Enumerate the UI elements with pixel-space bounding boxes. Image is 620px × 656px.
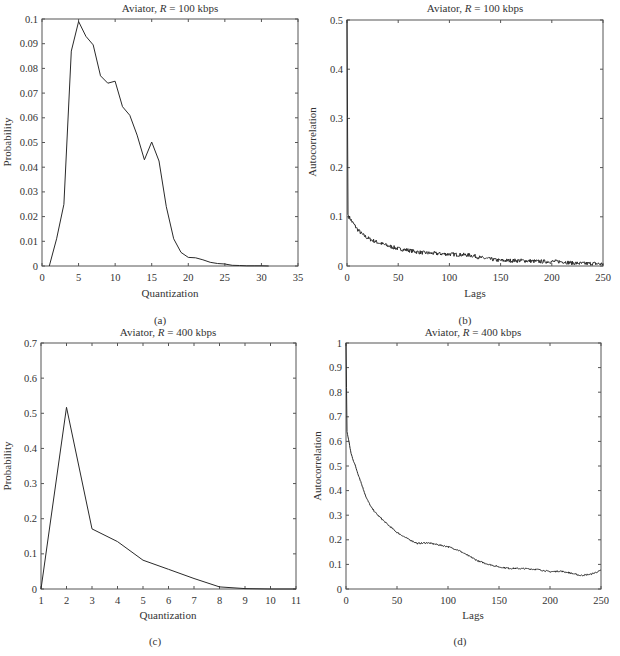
x-tick-label: 25: [220, 272, 231, 283]
x-tick-label: 50: [393, 272, 404, 283]
x-tick-label: 100: [440, 595, 456, 606]
panel-a-title: Aviator, R = 100 kbps: [122, 2, 218, 14]
x-tick-label: 15: [146, 272, 157, 283]
x-tick-label: 10: [110, 272, 121, 283]
y-tick-label: 0.06: [20, 112, 38, 123]
caption-d: (d): [454, 635, 467, 648]
plot-area-d: 05010015020025000.10.20.30.40.50.60.70.8…: [329, 338, 609, 607]
x-tick-label: 200: [542, 595, 558, 606]
y-tick-label: 0.6: [24, 373, 37, 384]
x-tick-label: 3: [89, 595, 94, 606]
x-tick-label: 0: [39, 272, 44, 283]
x-tick-label: 150: [493, 272, 509, 283]
x-axis-label-c: Quantization: [140, 609, 197, 621]
panel-d-title: Aviator, R = 400 kbps: [425, 326, 521, 338]
y-tick-label: 0.4: [24, 443, 38, 454]
x-tick-label: 250: [593, 595, 609, 606]
x-tick-label: 1: [38, 595, 43, 606]
y-tick-label: 0: [33, 261, 38, 272]
panel-b: Aviator, R = 100 kbps 05010015020025000.…: [306, 2, 611, 327]
x-tick-label: 6: [166, 595, 171, 606]
data-series-line: [49, 22, 268, 267]
y-tick-label: 0.3: [24, 478, 37, 489]
x-tick-label: 200: [544, 272, 560, 283]
y-tick-label: 0.1: [24, 548, 37, 559]
y-tick-label: 0.4: [329, 485, 343, 496]
panel-d: Aviator, R = 400 kbps 05010015020025000.…: [311, 326, 609, 648]
y-tick-label: 0.3: [329, 510, 342, 521]
x-tick-label: 9: [242, 595, 247, 606]
y-tick-label: 0.09: [20, 38, 38, 49]
x-tick-label: 8: [217, 595, 222, 606]
y-tick-label: 0.8: [329, 387, 342, 398]
y-tick-label: 0.6: [329, 436, 342, 447]
y-tick-label: 0.5: [330, 15, 343, 26]
x-axis-label-a: Quantization: [142, 287, 199, 299]
y-tick-label: 0.2: [330, 162, 343, 173]
plot-frame: [42, 19, 298, 266]
data-series-line: [347, 20, 603, 265]
y-tick-label: 0.1: [330, 211, 343, 222]
y-tick-label: 0.05: [20, 137, 38, 148]
y-tick-label: 0: [337, 584, 342, 595]
y-tick-label: 0.08: [20, 63, 38, 74]
y-tick-label: 0.04: [20, 162, 39, 173]
x-tick-label: 20: [183, 272, 194, 283]
panel-c-title: Aviator, R = 400 kbps: [120, 326, 216, 338]
y-tick-label: 0.1: [25, 14, 38, 25]
x-tick-label: 2: [64, 595, 69, 606]
y-axis-label-d: Autocorrelation: [311, 431, 323, 501]
y-tick-label: 0.1: [329, 559, 342, 570]
x-tick-label: 5: [76, 272, 81, 283]
panel-a: Aviator, R = 100 kbps 0510152025303500.0…: [1, 2, 303, 327]
y-tick-label: 0.7: [24, 338, 37, 349]
x-tick-label: 4: [115, 595, 121, 606]
x-axis-label-d: Lags: [462, 609, 483, 621]
x-tick-label: 0: [343, 595, 348, 606]
caption-c: (c): [149, 635, 162, 648]
x-tick-label: 100: [442, 272, 458, 283]
y-tick-label: 1: [337, 338, 342, 349]
plot-area-a: 0510152025303500.010.020.030.040.050.060…: [20, 14, 304, 284]
y-tick-label: 0: [338, 261, 343, 272]
data-series-line: [346, 343, 601, 576]
y-tick-label: 0.03: [20, 186, 38, 197]
plot-area-c: 123456789101100.10.20.30.40.50.60.7: [24, 338, 301, 607]
y-tick-label: 0.5: [24, 408, 37, 419]
y-tick-label: 0.07: [20, 88, 38, 99]
y-tick-label: 0.4: [330, 64, 344, 75]
data-series-line: [41, 407, 296, 589]
y-axis-label-a: Probability: [1, 117, 13, 166]
y-axis-label-c: Probability: [1, 441, 13, 490]
x-tick-label: 250: [595, 272, 611, 283]
x-tick-label: 35: [293, 272, 304, 283]
x-tick-label: 7: [191, 595, 196, 606]
y-tick-label: 0.7: [329, 411, 342, 422]
panel-c: Aviator, R = 400 kbps 123456789101100.10…: [1, 326, 301, 648]
panel-b-title: Aviator, R = 100 kbps: [427, 2, 523, 14]
x-axis-label-b: Lags: [464, 287, 485, 299]
x-tick-label: 5: [140, 595, 145, 606]
x-tick-label: 150: [491, 595, 507, 606]
x-tick-label: 30: [256, 272, 267, 283]
y-tick-label: 0.2: [24, 513, 37, 524]
y-tick-label: 0.5: [329, 461, 342, 472]
x-tick-label: 0: [344, 272, 349, 283]
x-tick-label: 11: [291, 595, 301, 606]
y-tick-label: 0.9: [329, 362, 342, 373]
y-tick-label: 0: [32, 584, 37, 595]
x-tick-label: 50: [392, 595, 403, 606]
y-tick-label: 0.3: [330, 113, 343, 124]
figure: Aviator, R = 100 kbps 0510152025303500.0…: [0, 0, 620, 656]
y-tick-label: 0.01: [20, 236, 38, 247]
plot-frame: [347, 20, 603, 266]
plot-frame: [346, 343, 601, 589]
plot-area-b: 05010015020025000.10.20.30.40.5: [330, 15, 611, 284]
x-tick-label: 10: [265, 595, 276, 606]
y-tick-label: 0.2: [329, 534, 342, 545]
y-axis-label-b: Autocorrelation: [306, 107, 318, 177]
y-tick-label: 0.02: [20, 211, 38, 222]
